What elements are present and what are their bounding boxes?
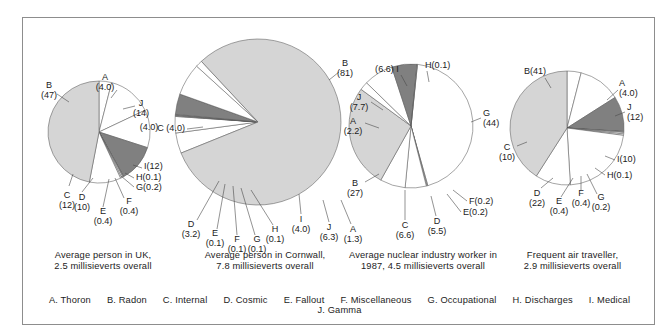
pie-label-e: E(0.2) bbox=[463, 207, 488, 217]
pie-label-a: A(4.0) bbox=[619, 78, 638, 98]
pie-label-d: D(3.2) bbox=[182, 219, 201, 239]
pie-label-i: I(10) bbox=[617, 154, 636, 164]
pie-label-a: A(4.0) bbox=[96, 72, 115, 92]
legend-entry-e: E. Fallout bbox=[284, 295, 325, 305]
pie-label-e: E(0.4) bbox=[94, 206, 113, 226]
pie-label-e: E(0.1) bbox=[206, 228, 225, 248]
caption-line-2: 2.5 millisieverts overall bbox=[23, 261, 183, 272]
pie-label-i: I(4.0) bbox=[292, 214, 311, 234]
pie-label-f: F(0.4) bbox=[572, 188, 591, 208]
caption-line-2: 7.8 millisieverts overall bbox=[175, 261, 355, 272]
pie-label-f: F(0.2) bbox=[469, 196, 493, 206]
caption-uk: Average person in UK, 2.5 millisieverts … bbox=[23, 250, 183, 273]
chart-uk: A(4.0)J(14)C(12)I(12)H(0.1)G(0.2)F(0.4)E… bbox=[23, 18, 183, 250]
legend-entry-h: H. Discharges bbox=[512, 295, 572, 305]
legend-entry-j: J. Gamma bbox=[317, 305, 361, 315]
leader-line-e bbox=[447, 194, 461, 212]
pie-label-d: D(5.5) bbox=[428, 216, 447, 236]
caption-line-1: Frequent air traveller, bbox=[495, 250, 650, 261]
caption-line-2: 2.9 millisieverts overall bbox=[495, 261, 650, 272]
leader-line-j bbox=[323, 200, 329, 222]
pie-label-h: H(0.1) bbox=[607, 170, 632, 180]
legend-entry-f: F. Miscellaneous bbox=[340, 295, 411, 305]
pie-label-d: D(10) bbox=[74, 192, 90, 212]
pie-label-h: H(0.1) bbox=[136, 172, 161, 182]
pie-label-c: C(12) bbox=[59, 190, 75, 210]
leader-line-f bbox=[453, 190, 467, 201]
leader-line-i bbox=[299, 194, 301, 214]
legend-entry-i: I. Medical bbox=[589, 295, 630, 305]
pie-label-i: I(12) bbox=[144, 161, 163, 171]
leader-line-c bbox=[69, 174, 73, 186]
pie-label-b: B(47) bbox=[41, 80, 57, 100]
legend-entry-g: G. Occupational bbox=[428, 295, 497, 305]
chart-cornwall: C (4.0)D(3.2)E(0.1)F(0.1)G(0.1)H(0.1)I(4… bbox=[163, 18, 353, 250]
pie-air-traveller: A(4.0)J(12)I(10)H(0.1)G(0.2)F(0.4)E(0.4)… bbox=[495, 18, 655, 250]
legend-entry-d: D. Cosmic bbox=[223, 295, 267, 305]
caption-cornwall: Average person in Cornwall, 7.8 millisie… bbox=[175, 250, 355, 273]
caption-line-1: Average person in Cornwall, bbox=[175, 250, 355, 261]
caption-line-2: 1987, 4.5 millisieverts overall bbox=[333, 261, 513, 272]
legend-entry-b: B. Radon bbox=[107, 295, 147, 305]
pie-label-f: F(0.4) bbox=[120, 196, 139, 216]
legend-entry-c: C. Internal bbox=[163, 295, 208, 305]
pie-label-i: (6.6) I bbox=[375, 64, 399, 74]
pie-label-h: H(0.1) bbox=[425, 60, 450, 70]
pie-label-g: G(0.2) bbox=[592, 192, 611, 212]
pie-label-b: B(27) bbox=[347, 178, 363, 198]
caption-line-1: Average person in UK, bbox=[23, 250, 183, 261]
pie-label-b: B(41) bbox=[524, 66, 546, 76]
pie-uk-extra-value: (4.0) bbox=[140, 122, 159, 132]
legend-entry-a: A. Thoron bbox=[49, 295, 91, 305]
pie-label-j: J(6.3) bbox=[320, 222, 339, 242]
pie-nuclear-worker: G(44)F(0.2)E(0.2)D(5.5)C(6.6)B(27)A(2.2)… bbox=[339, 18, 504, 250]
leader-line-d bbox=[431, 196, 436, 216]
caption-air-traveller: Frequent air traveller, 2.9 millisievert… bbox=[495, 250, 650, 273]
caption-nuclear-worker: Average nuclear industry worker in 1987,… bbox=[333, 250, 513, 273]
legend: A. ThoronB. RadonC. InternalD. CosmicE. … bbox=[23, 295, 656, 315]
chart-air-traveller: A(4.0)J(12)I(10)H(0.1)G(0.2)F(0.4)E(0.4)… bbox=[495, 18, 655, 250]
pie-label-j: J(12) bbox=[627, 102, 643, 122]
leader-line-h bbox=[125, 173, 134, 178]
pie-uk: A(4.0)J(14)C(12)I(12)H(0.1)G(0.2)F(0.4)E… bbox=[23, 18, 183, 250]
pie-cornwall: C (4.0)D(3.2)E(0.1)F(0.1)G(0.1)H(0.1)I(4… bbox=[163, 18, 353, 250]
figure-frame: A(4.0)J(14)C(12)I(12)H(0.1)G(0.2)F(0.4)E… bbox=[22, 17, 655, 325]
pie-label-c: C (4.0) bbox=[157, 123, 185, 133]
leader-line-e bbox=[103, 179, 109, 207]
pie-label-d: D(22) bbox=[529, 188, 545, 208]
pie-label-h: H(0.1) bbox=[266, 224, 285, 244]
pie-label-g: G(0.2) bbox=[136, 182, 162, 192]
pie-label-e: E(0.4) bbox=[550, 196, 569, 216]
leader-line-f bbox=[115, 178, 124, 198]
leader-line-g bbox=[121, 176, 134, 187]
pie-label-c: C(6.6) bbox=[396, 220, 415, 240]
caption-line-1: Average nuclear industry worker in bbox=[333, 250, 513, 261]
chart-nuclear-worker: G(44)F(0.2)E(0.2)D(5.5)C(6.6)B(27)A(2.2)… bbox=[339, 18, 504, 250]
